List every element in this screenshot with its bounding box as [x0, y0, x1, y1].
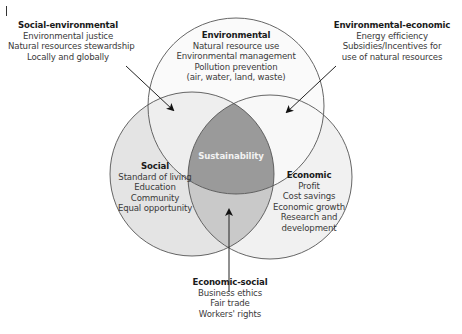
social-environmental-item: Environmental justice — [8, 31, 128, 42]
economic-social-item: Workers' rights — [180, 309, 280, 320]
economic-item: development — [262, 223, 356, 234]
social-item: Standard of living — [108, 172, 202, 183]
sustainability-label: Sustainability — [196, 151, 266, 161]
environmental-economic-item: Energy efficiency — [332, 31, 452, 42]
social-environmental-item: Natural resources stewardship — [8, 41, 128, 52]
social-item: Community — [108, 193, 202, 204]
social-environmental-label: Social-environmental Environmental justi… — [8, 20, 128, 62]
economic-item: Research and — [262, 212, 356, 223]
environmental-item: Pollution prevention — [176, 62, 296, 73]
social-environmental-item: Locally and globally — [8, 52, 128, 63]
economic-social-item: Fair trade — [180, 298, 280, 309]
environmental-item: Natural resource use — [176, 41, 296, 52]
social-title: Social — [108, 161, 202, 172]
economic-title: Economic — [262, 170, 356, 181]
economic-social-item: Business ethics — [180, 288, 280, 299]
environmental-item: (air, water, land, waste) — [176, 72, 296, 83]
social-item: Education — [108, 182, 202, 193]
economic-social-label: Economic-social Business ethics Fair tra… — [180, 277, 280, 319]
economic-item: Cost savings — [262, 191, 356, 202]
economic-item: Profit — [262, 181, 356, 192]
economic-label: Economic Profit Cost savings Economic gr… — [262, 170, 356, 234]
environmental-economic-label: Environmental-economic Energy efficiency… — [332, 20, 452, 62]
environmental-economic-item: Subsidies/Incentives for — [332, 41, 452, 52]
social-environmental-title: Social-environmental — [8, 20, 128, 31]
social-label: Social Standard of living Education Comm… — [108, 161, 202, 214]
environmental-item: Environmental management — [176, 51, 296, 62]
environmental-label: Environmental Natural resource use Envir… — [176, 30, 296, 83]
economic-item: Economic growth — [262, 202, 356, 213]
environmental-economic-title: Environmental-economic — [332, 20, 452, 31]
economic-social-title: Economic-social — [180, 277, 280, 288]
environmental-economic-item: use of natural resources — [332, 52, 452, 63]
social-item: Equal opportunity — [108, 203, 202, 214]
environmental-title: Environmental — [176, 30, 296, 41]
